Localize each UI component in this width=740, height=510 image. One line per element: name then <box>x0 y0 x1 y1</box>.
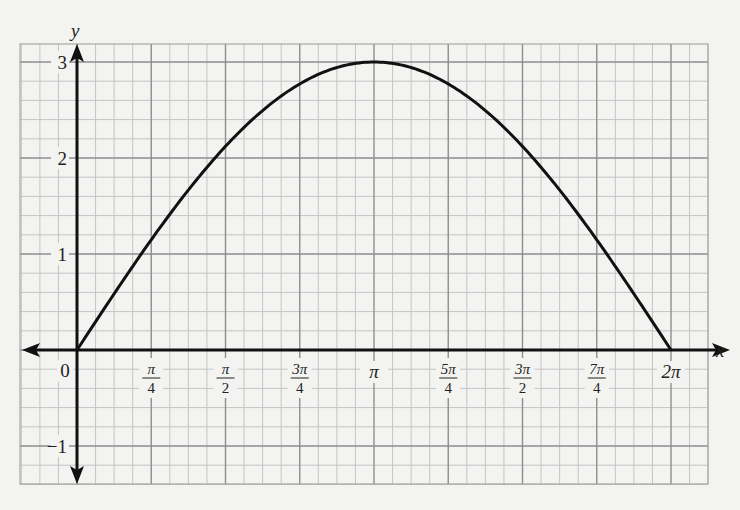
x-tick-label-numerator: π <box>222 361 230 377</box>
x-tick-label-numerator: 3π <box>291 361 308 377</box>
x-tick-label-denominator: 4 <box>445 380 453 396</box>
y-tick-label: 2 <box>58 148 68 169</box>
x-axis-label: x <box>715 340 725 361</box>
x-tick-label-denominator: 2 <box>222 380 230 396</box>
y-axis-label: y <box>69 20 80 41</box>
grid-border <box>20 44 708 484</box>
x-tick-label: π <box>369 361 379 382</box>
x-tick-label-numerator: 5π <box>441 361 457 377</box>
x-tick-label-denominator: 4 <box>593 380 601 396</box>
x-tick-label-origin: 0 <box>60 360 70 381</box>
x-tick-label-denominator: 4 <box>296 380 304 396</box>
x-tick-label-numerator: π <box>147 361 155 377</box>
x-tick-label-denominator: 4 <box>148 380 156 396</box>
x-tick-label-numerator: 3π <box>514 361 531 377</box>
x-tick-label-numerator: 7π <box>589 361 605 377</box>
x-tick-label-denominator: 2 <box>519 380 527 396</box>
sine-graph: 0π4π23π4π5π43π27π42π321−1yx <box>0 0 740 510</box>
grid-major <box>20 44 708 484</box>
grid-minor <box>20 44 708 484</box>
axes <box>22 44 730 484</box>
tick-labels: 0π4π23π4π5π43π27π42π321−1yx <box>47 20 725 457</box>
y-tick-label: 1 <box>58 244 68 265</box>
y-tick-label: −1 <box>47 436 67 457</box>
y-tick-label: 3 <box>58 52 68 73</box>
x-tick-label: 2π <box>661 361 681 382</box>
